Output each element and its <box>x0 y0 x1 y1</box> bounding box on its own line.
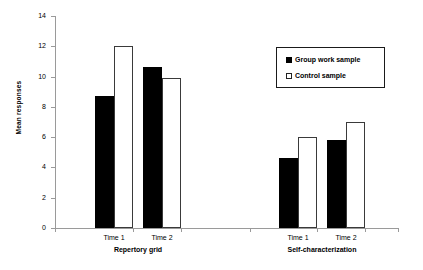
x-tick-label: Time 2 <box>132 233 192 242</box>
bar <box>346 122 365 228</box>
y-tick-label: 4 <box>42 163 46 170</box>
y-tick-label: 6 <box>42 133 46 140</box>
legend: Group work sample Control sample <box>276 47 385 88</box>
x-tick-label: Time 2 <box>316 233 376 242</box>
y-tick-label: 12 <box>38 42 46 49</box>
x-tick-mark <box>398 228 399 232</box>
legend-entry-control-sample: Control sample <box>286 72 346 80</box>
bar <box>95 96 114 228</box>
y-tick-label: 2 <box>42 194 46 201</box>
y-tick-mark <box>51 77 55 78</box>
x-tick-mark <box>250 228 251 232</box>
legend-swatch-hollow-icon <box>286 73 292 79</box>
y-tick-label: 8 <box>42 103 46 110</box>
bar-chart: Mean responses 02468101214 Time 1Time 2T… <box>0 0 423 270</box>
y-tick-mark <box>51 167 55 168</box>
y-tick-label: 0 <box>42 224 46 231</box>
y-axis-line <box>55 16 56 228</box>
x-tick-mark <box>181 228 182 232</box>
bar <box>298 137 317 228</box>
legend-swatch-filled-icon <box>286 57 292 63</box>
x-tick-mark <box>55 228 56 232</box>
bar <box>143 67 162 228</box>
legend-label: Group work sample <box>295 56 360 64</box>
y-tick-mark <box>51 107 55 108</box>
x-axis-line <box>55 228 398 229</box>
bar <box>114 46 133 228</box>
y-tick-mark <box>51 198 55 199</box>
bar <box>279 158 298 228</box>
y-axis-title: Mean responses <box>15 68 22 148</box>
x-axis-group-label: Self-characterization <box>247 245 397 254</box>
bar <box>327 140 346 228</box>
x-axis-group-label: Repertory grid <box>63 245 213 254</box>
y-tick-mark <box>51 16 55 17</box>
x-tick-mark <box>365 228 366 232</box>
bar <box>162 78 181 228</box>
legend-entry-group-work-sample: Group work sample <box>286 56 360 64</box>
legend-label: Control sample <box>295 72 346 80</box>
x-tick-mark <box>133 228 134 232</box>
x-tick-mark <box>317 228 318 232</box>
y-tick-label: 10 <box>38 73 46 80</box>
y-tick-mark <box>51 46 55 47</box>
y-tick-mark <box>51 137 55 138</box>
y-tick-label: 14 <box>38 12 46 19</box>
